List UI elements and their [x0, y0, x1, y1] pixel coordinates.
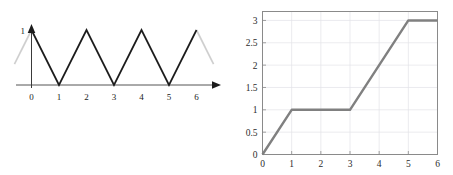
gridline-group — [263, 12, 438, 155]
x-axis-arrow-icon — [212, 81, 221, 89]
figure-root: 0123456 1 0123456 00.511.522.53 — [0, 0, 453, 175]
y-tick-label: 2 — [253, 61, 258, 71]
x-tick-label: 2 — [318, 159, 323, 169]
x-tick-label-group: 0123456 — [260, 159, 440, 169]
x-tick-label: 0 — [29, 92, 34, 102]
ghost-segment-right — [197, 30, 214, 64]
y-tick-label: 1 — [21, 26, 26, 36]
x-tick-label: 4 — [377, 159, 382, 169]
step-ramp-chart: 0123456 00.511.522.53 — [226, 0, 453, 175]
y-tick-label: 0.5 — [246, 128, 258, 138]
chart-panel-right: 0123456 00.511.522.53 — [226, 0, 453, 175]
x-tick-label: 4 — [139, 92, 144, 102]
y-tick-label: 1 — [253, 105, 258, 115]
x-tick-label: 0 — [260, 159, 265, 169]
y-tick-label: 2.5 — [246, 38, 258, 48]
y-tick-label: 1.5 — [246, 83, 258, 93]
y-tick-label: 0 — [253, 150, 258, 160]
x-tick-label-group: 0123456 — [29, 92, 199, 102]
x-tick-label: 3 — [112, 92, 117, 102]
y-tick-label-group: 1 — [21, 26, 26, 36]
x-tick-label: 5 — [167, 92, 172, 102]
x-tick-label: 5 — [406, 159, 411, 169]
chart-panel-left: 0123456 1 — [0, 0, 226, 175]
x-tick-label: 6 — [435, 159, 440, 169]
left-ghost-segments — [14, 30, 213, 64]
x-tick-label: 3 — [348, 159, 353, 169]
x-tick-label: 1 — [289, 159, 294, 169]
y-tick-label: 3 — [253, 16, 258, 26]
x-tick-label: 2 — [84, 92, 89, 102]
x-tick-label: 1 — [57, 92, 62, 102]
triangle-wave-series — [32, 30, 197, 85]
y-tick-label-group: 00.511.522.53 — [246, 16, 258, 160]
triangle-wave-chart: 0123456 1 — [0, 0, 226, 175]
left-axes — [16, 24, 221, 89]
x-tick-label: 6 — [194, 92, 199, 102]
